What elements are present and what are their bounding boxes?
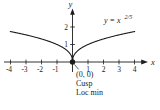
x-axis-label: x bbox=[150, 57, 155, 67]
y-tick-label: 2 bbox=[64, 23, 68, 32]
origin-point bbox=[70, 59, 75, 64]
x-tick-label: -3 bbox=[21, 65, 27, 74]
x-tick-label: 2 bbox=[102, 65, 106, 74]
equation-label: y = x 2/5 bbox=[103, 9, 132, 26]
x-tick-label: -2 bbox=[37, 65, 43, 74]
x-tick-label: -4 bbox=[6, 65, 12, 74]
loc-min-label: Loc min bbox=[76, 88, 103, 97]
equation-base: y = x bbox=[103, 16, 121, 25]
y-axis-arrowhead-icon bbox=[70, 9, 75, 15]
y-axis-label: y bbox=[68, 0, 73, 9]
x-tick-label: 3 bbox=[117, 65, 121, 74]
function-plot: -4 -3 -2 -1 1 2 3 4 1 2 x y y = x 2/5 (0… bbox=[0, 0, 160, 110]
x-tick-label: -1 bbox=[52, 65, 58, 74]
origin-coordinates-label: (0, 0) bbox=[76, 70, 94, 79]
x-tick-label: 4 bbox=[133, 65, 137, 74]
equation-exponent: 2/5 bbox=[125, 14, 133, 20]
annotation-leader-line bbox=[74, 64, 78, 69]
figure-canvas: -4 -3 -2 -1 1 2 3 4 1 2 x y y = x 2/5 (0… bbox=[0, 0, 160, 110]
x-axis-arrowhead-icon bbox=[141, 60, 148, 65]
cusp-label: Cusp bbox=[76, 79, 92, 88]
y-tick-label: 1 bbox=[64, 40, 68, 49]
